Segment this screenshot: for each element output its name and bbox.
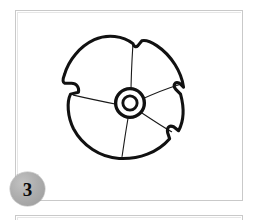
figure-panel: [15, 10, 243, 201]
next-figure-panel: [15, 215, 243, 220]
rosette-flower-line-drawing: [16, 11, 242, 200]
page-root: 3: [0, 0, 254, 220]
hub-inner-ring: [123, 96, 137, 110]
step-badge-label: 3: [23, 179, 33, 198]
step-badge: 3: [10, 172, 45, 206]
flower-center-hub: [116, 89, 145, 118]
